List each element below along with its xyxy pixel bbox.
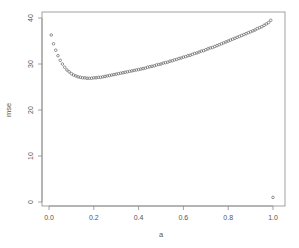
x-tick-label: 0.6 bbox=[179, 214, 189, 221]
x-tick-label: 1.0 bbox=[268, 214, 278, 221]
data-point bbox=[54, 49, 57, 52]
y-tick-label: 30 bbox=[27, 60, 34, 68]
data-point bbox=[59, 59, 62, 62]
x-tick-label: 0.2 bbox=[89, 214, 99, 221]
data-point bbox=[50, 34, 53, 37]
y-axis-title: mse bbox=[4, 103, 13, 117]
y-tick-label: 10 bbox=[27, 152, 34, 160]
y-axis: 010203040 bbox=[27, 14, 42, 204]
data-point bbox=[267, 21, 270, 24]
x-tick-label: 0.8 bbox=[223, 214, 233, 221]
data-point bbox=[272, 196, 275, 199]
x-tick-label: 0.0 bbox=[44, 214, 54, 221]
y-tick-label: 40 bbox=[27, 14, 34, 22]
y-tick-label: 20 bbox=[27, 106, 34, 114]
plot-frame bbox=[42, 12, 285, 206]
data-point bbox=[57, 54, 60, 57]
x-tick-label: 0.4 bbox=[134, 214, 144, 221]
data-point bbox=[52, 42, 55, 45]
data-point bbox=[269, 19, 272, 22]
data-point bbox=[63, 66, 66, 69]
x-axis-title: a bbox=[159, 230, 164, 239]
data-points bbox=[50, 19, 274, 199]
y-tick-label: 0 bbox=[27, 200, 34, 204]
data-point bbox=[61, 63, 64, 66]
x-axis: 0.00.20.40.60.81.0 bbox=[44, 206, 278, 221]
scatter-chart: 0.00.20.40.60.81.0 010203040 a mse bbox=[0, 0, 299, 248]
